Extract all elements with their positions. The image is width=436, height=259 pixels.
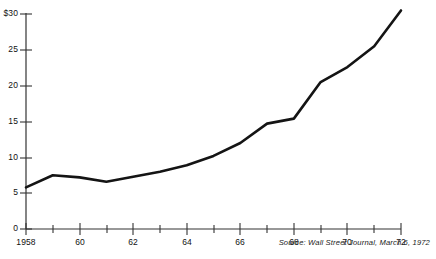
x-tick-label-60: 60	[68, 238, 92, 247]
x-tick-label-62: 62	[121, 238, 145, 247]
y-tick-label-30: $30	[0, 9, 18, 18]
x-tick-label-66: 66	[228, 238, 252, 247]
line-chart-plot	[0, 0, 436, 259]
x-tick-label-1958: 1958	[9, 238, 43, 247]
source-note: Source: Wall Street Journal, March 6, 19…	[279, 238, 430, 247]
y-tick-label-25: 25	[0, 45, 18, 54]
y-tick-label-5: 5	[0, 188, 18, 197]
y-tick-label-0: 0	[0, 224, 18, 233]
y-tick-label-20: 20	[0, 81, 18, 90]
y-tick-label-10: 10	[0, 153, 18, 162]
y-tick-label-15: 15	[0, 117, 18, 126]
chart-container: $30 25 20 15 10 5 0 1958 60 62 64 66 68 …	[0, 0, 436, 259]
x-tick-label-64: 64	[175, 238, 199, 247]
data-line-series	[26, 10, 401, 187]
